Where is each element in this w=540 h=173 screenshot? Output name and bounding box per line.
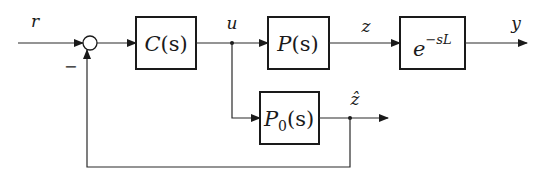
u-to-model-wire (232, 43, 260, 118)
summing-junction (83, 36, 97, 50)
signal-label-z: z (361, 16, 372, 36)
signal-label-y: y (510, 13, 521, 33)
signal-label-r: r (31, 11, 40, 31)
signal-label-zhat: ẑ (350, 89, 361, 109)
minus-sign: − (64, 57, 77, 76)
block-diagram: r − C(s) u P(s) z e−sL y P0(s) ẑ (0, 0, 540, 173)
plant-label: P(s) (276, 32, 318, 56)
controller-label: C(s) (144, 32, 187, 56)
model-label: P0(s) (263, 107, 314, 134)
signal-label-u: u (227, 13, 238, 33)
